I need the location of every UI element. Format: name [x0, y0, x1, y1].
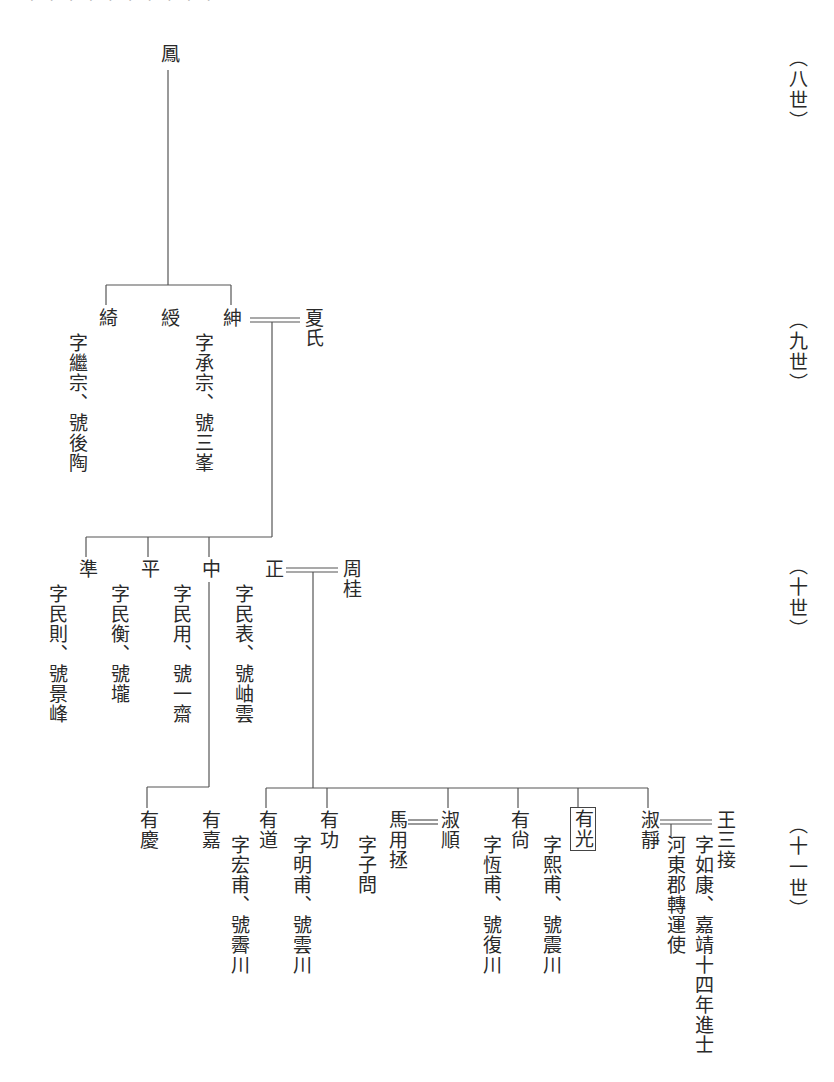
spouse-name: 王三接 [714, 810, 736, 870]
spouse-name: 周桂 [340, 559, 362, 599]
spouse-note: 字如康、嘉靖十四年進士 [692, 835, 714, 1055]
person-note: 字繼宗、號後陶 [66, 333, 88, 473]
spouse-name: 夏氏 [302, 308, 324, 348]
person-note: 字明甫、號雲川 [290, 835, 312, 975]
person-note: 字民則、號景峰 [46, 584, 68, 724]
spouse-office-note: 河東郡轉運使 [664, 835, 686, 955]
person-note: 字民表、號岫雲 [232, 584, 254, 724]
person-note: 字宏甫、號霽川 [228, 835, 250, 975]
generation-label-8: （八世） [786, 48, 808, 132]
person-note: 字民衡、號壠 [108, 584, 130, 704]
person-gen11-youqing: 有慶 [137, 810, 159, 850]
person-note: 字民用、號一齋 [170, 584, 192, 724]
person-note: 字熙甫、號震川 [540, 835, 562, 975]
generation-label-9: （九世） [786, 310, 808, 394]
person-gen11-youdao: 有道 [256, 810, 278, 850]
person-gen11-yougong: 有功 [317, 810, 339, 850]
person-gen11-shushun: 淑順 [438, 810, 460, 850]
person-root: 鳳 [158, 44, 180, 64]
generation-label-11: （十一世） [786, 815, 808, 920]
spouse-name: 馬用拯 [386, 810, 408, 870]
person-gen11-youguang-highlighted: 有光 [570, 807, 596, 851]
person-gen11-youshang: 有尙 [508, 810, 530, 850]
person-gen10-zheng: 正 [262, 559, 284, 579]
person-gen11-youjia: 有嘉 [199, 810, 221, 850]
person-gen9-shou: 綬 [158, 308, 180, 328]
spouse-note: 字子問 [355, 835, 377, 895]
person-gen10-zhun: 準 [76, 559, 98, 579]
person-note: 字恆甫、號復川 [480, 835, 502, 975]
person-gen10-ping: 平 [138, 559, 160, 579]
person-gen9-shen: 紳 [220, 308, 242, 328]
generation-label-10: （十世） [786, 556, 808, 640]
person-gen11-shujing: 淑靜 [638, 810, 660, 850]
person-gen10-zhong: 中 [199, 559, 221, 579]
person-note: 字承宗、號三峯 [192, 333, 214, 473]
person-gen9-qi: 綺 [96, 308, 118, 328]
